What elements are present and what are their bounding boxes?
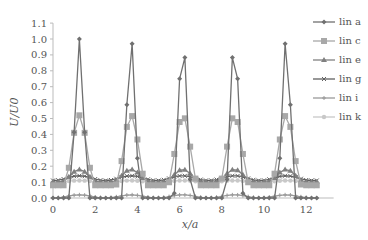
y-tick-label: 0.6 [31,97,47,108]
marker [108,182,114,188]
marker [76,112,82,118]
marker [130,41,135,46]
marker [229,167,235,172]
legend-swatch-icon [313,112,335,122]
marker [161,196,166,201]
marker [256,182,262,188]
legend-swatch-icon [313,93,335,103]
marker [192,176,198,182]
marker [151,196,156,201]
marker [124,102,129,107]
marker [314,182,320,188]
x-axis-title: x/a [182,218,198,231]
x-tick-label: 2 [92,204,98,215]
marker [72,178,76,182]
marker [113,182,119,188]
x-tick-label: 6 [176,204,182,215]
marker [103,196,108,201]
y-tick-label: 1.1 [31,18,47,29]
marker [278,179,282,183]
marker [198,196,203,201]
marker [183,178,187,182]
marker [278,193,282,197]
marker [82,178,86,182]
marker [135,156,140,161]
marker [282,166,288,171]
marker [283,41,288,46]
marker [156,196,161,201]
y-tick-label: 0.3 [31,145,47,156]
y-tick-label: 0.5 [31,113,47,124]
marker [140,171,146,177]
legend-label: lin g [339,73,361,84]
marker [156,182,162,188]
marker [308,182,314,188]
legend-swatch-icon [313,17,335,27]
marker [262,196,267,201]
marker [134,136,140,142]
marker [219,176,225,182]
marker [166,179,172,185]
marker [309,196,314,201]
marker [55,182,61,188]
marker [225,193,229,197]
legend-swatch-icon [313,36,335,46]
legend-item: lin e [313,50,368,69]
x-tick-label: 12 [300,204,313,215]
marker [150,182,156,188]
y-tick-label: 0.1 [31,177,47,188]
x-tick-label: 10 [258,204,271,215]
marker [72,193,76,197]
legend-label: lin a [339,16,361,27]
marker [198,182,204,188]
marker [230,55,235,60]
marker [76,166,82,171]
y-tick-label: 0.0 [31,193,47,204]
y-tick-label: 0.9 [31,49,47,60]
marker [182,55,187,60]
marker [109,196,114,201]
x-tick-label: 0 [50,204,56,215]
marker [124,124,130,130]
marker [129,166,135,171]
marker [261,182,267,188]
marker [283,193,287,197]
marker [208,182,214,188]
marker [129,113,135,119]
legend-swatch-icon [313,74,335,84]
marker [178,193,182,197]
marker [83,193,87,197]
marker [250,182,256,188]
marker [51,196,56,201]
legend-swatch-icon [313,55,335,65]
marker [256,196,261,201]
marker [177,178,181,182]
marker [161,182,167,188]
marker [188,193,192,197]
marker [50,182,56,188]
y-tick-label: 0.7 [31,81,47,92]
marker [303,182,309,188]
marker [203,196,208,201]
marker [288,178,292,182]
x-tick-label: 8 [219,204,225,215]
marker [283,178,287,182]
marker [288,102,293,107]
legend-item: lin a [313,12,368,31]
marker [61,182,67,188]
marker [288,193,292,197]
marker [322,96,326,100]
marker [322,114,326,118]
y-tick-label: 0.4 [31,129,47,140]
marker [97,182,103,188]
marker [183,193,187,197]
marker [103,182,109,188]
legend-label: lin i [339,92,358,103]
marker [277,156,282,161]
marker [235,76,240,81]
legend-item: lin i [313,88,368,107]
marker [77,178,81,182]
marker [77,193,81,197]
marker [272,171,278,177]
marker [182,167,188,172]
